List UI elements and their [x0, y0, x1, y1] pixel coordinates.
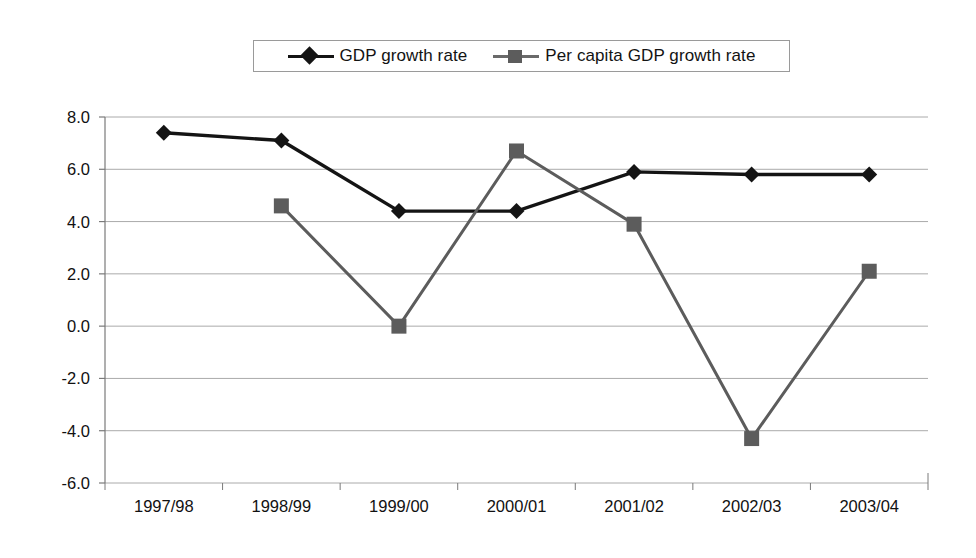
- data-point-s0-2001-02: [626, 164, 642, 180]
- plot-svg: [105, 117, 928, 483]
- data-point-s1-1999-00: [391, 319, 406, 334]
- data-point-s1-2002-03: [744, 431, 759, 446]
- y-axis-tick-label-0.0: 0.0: [30, 317, 90, 336]
- data-point-s0-1999-00: [391, 203, 407, 219]
- data-point-s1-2003-04: [862, 264, 877, 279]
- y-axis-tick-label-8.0: 8.0: [30, 108, 90, 127]
- x-axis-tick-label-1999-00: 1999/00: [369, 497, 429, 516]
- x-axis-ticks: [105, 483, 928, 490]
- x-axis-tick-label-1997-98: 1997/98: [134, 497, 194, 516]
- legend-key-square: [493, 47, 539, 65]
- diamond-marker-icon: [300, 46, 318, 64]
- data-point-s1-2000-01: [509, 143, 524, 158]
- x-axis-tick-label-2003-04: 2003/04: [839, 497, 899, 516]
- x-axis-tick-label-2001-02: 2001/02: [604, 497, 664, 516]
- legend-label-series-1: Per capita GDP growth rate: [539, 46, 755, 66]
- legend-item-gdp-growth-rate: GDP growth rate: [288, 46, 468, 66]
- chart-legend: GDP growth rate Per capita GDP growth ra…: [253, 40, 790, 72]
- series-lines: [164, 133, 869, 439]
- x-axis-tick-label-2000-01: 2000/01: [487, 497, 547, 516]
- y-axis-tick-label--6.0: -6.0: [30, 474, 90, 493]
- x-axis-tick-label-1998-99: 1998/99: [252, 497, 312, 516]
- y-axis-tick-label--2.0: -2.0: [30, 369, 90, 388]
- legend-key-diamond: [288, 47, 334, 65]
- legend-item-per-capita-gdp-growth-rate: Per capita GDP growth rate: [493, 46, 755, 66]
- y-axis-tick-label-2.0: 2.0: [30, 264, 90, 283]
- gdp-growth-line-chart: GDP growth rate Per capita GDP growth ra…: [0, 0, 976, 558]
- x-axis-tick-label-2002-03: 2002/03: [722, 497, 782, 516]
- y-axis-tick-label--4.0: -4.0: [30, 421, 90, 440]
- data-point-s1-1998-99: [274, 198, 289, 213]
- y-axis-tick-label-4.0: 4.0: [30, 212, 90, 231]
- data-point-s0-1997-98: [156, 125, 172, 141]
- axis-lines: [99, 117, 928, 483]
- gridlines: [105, 117, 928, 483]
- x-axis-labels: 1997/981998/991999/002000/012001/022002/…: [105, 497, 928, 521]
- square-marker-icon: [508, 50, 522, 63]
- y-axis-labels: 8.06.04.02.00.0-2.0-4.0-6.0: [28, 117, 90, 483]
- data-point-s1-2001-02: [627, 217, 642, 232]
- data-point-s0-1998-99: [273, 133, 289, 149]
- data-point-s0-2000-01: [509, 203, 525, 219]
- y-axis-tick-label-6.0: 6.0: [30, 160, 90, 179]
- legend-label-series-0: GDP growth rate: [334, 46, 468, 66]
- plot-area: [105, 117, 928, 483]
